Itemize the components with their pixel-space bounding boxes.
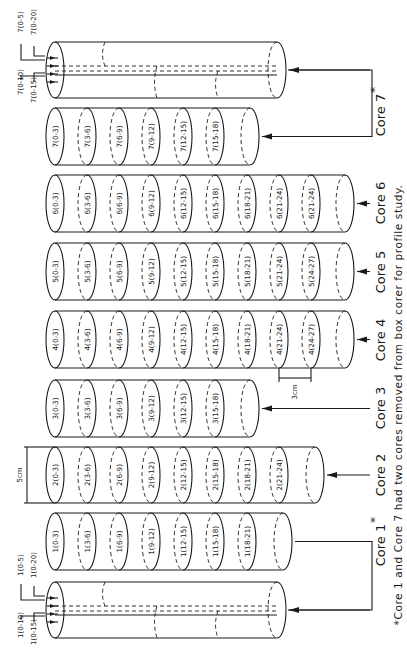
slice-label: 4(9-12) [147,326,156,353]
slice-label: 2(15-18) [211,459,220,490]
slice-label: 4(6-9) [115,328,124,350]
arrow-head-icon [357,337,367,343]
cylinder-bottom-face-hidden [241,380,250,437]
asterisk: * [367,86,382,93]
slice-label: 3(3-6) [83,397,92,419]
core-label: Core 4 [373,319,388,362]
sublabel: 7(0-20) [30,9,38,35]
cylinder-bottom-face-hidden [268,42,277,98]
thickness-label: 3cm [291,384,299,399]
slice-label: 6(6-9) [115,192,124,214]
cylinder-bottom-face-hidden [336,311,345,368]
diameter-label: 5cm [16,467,24,482]
cylinder-bottom-face [345,175,354,232]
arrow-head-icon [50,56,55,60]
slice-label: 6(15-18) [211,188,220,219]
slice-label: 6(0-3) [51,192,60,214]
slice-label: 3(0-3) [51,397,60,419]
slice-label: 5(0-3) [51,260,60,282]
arrow-head-icon [50,612,55,616]
slice-label: 6(3-6) [83,192,92,214]
slice-label: 1(9-12) [147,528,156,555]
arrow-head-icon [50,72,55,76]
slice-label: 3(12-15) [179,393,188,424]
slice-label: 4(12-15) [179,324,188,355]
leader-line [34,46,45,56]
slice-label: 3(6-9) [115,397,124,419]
slice-label: 6(21-24) [275,188,284,219]
slice-label: 1(0-3) [51,530,60,552]
slice-label: 2(3-6) [83,464,92,486]
slice-label: 7(3-6) [83,125,92,147]
slice-label: 7(6-9) [115,125,124,147]
cylinder-bottom-face [277,42,286,98]
cylinder-bottom-face-hidden [336,175,345,232]
slice-label: 6(9-12) [147,190,156,217]
cylinder-bottom-face [277,582,286,638]
core-label: Core 5 [373,251,388,294]
core-label: Core 3 [373,387,388,430]
cylinder-bottom-face [315,447,324,503]
cylinder-bottom-face-hidden [336,243,345,300]
core-label: Core 1 [373,524,388,567]
slice-label: 2(18-21) [243,459,252,490]
slice-label: 2(0-3) [51,464,60,486]
sublabel: 1(0-5) [17,554,25,576]
core-sampling-diagram: 7(0-5)7(0-20)7(0-10)7(0-15)7(0-3)7(3-6)7… [0,0,407,662]
core-label: Core 7 [373,94,388,137]
arrow-head-icon [50,64,55,68]
cylinder-bottom-face [345,243,354,300]
slice-label: 3(15-18) [211,393,220,424]
core-7-split-cylinder [21,42,286,98]
slice-label: 6(18-21) [243,188,252,219]
sublabel: 7(0-10) [17,69,25,95]
slice-label: 7(15-18) [211,121,220,152]
cylinder-top-face [46,42,64,98]
slice-label: 1(15-18) [211,526,220,557]
arrow-head-icon [50,596,55,600]
slice-label: 6(12-15) [179,188,188,219]
figure-caption: *Core 1 and Core 7 had two cores removed… [392,185,404,626]
core-label: Core 2 [373,454,388,497]
slice-label: 5(3-6) [83,260,92,282]
sublabel: 1(0-10) [17,612,25,638]
core-7-leader [262,70,372,137]
slice-label: 3(9-12) [147,395,156,422]
slice-label: 5(12-15) [179,256,188,287]
depth-cut [103,42,106,66]
cylinder-bottom-face-hidden [241,108,250,165]
cylinder-bottom-face-hidden [274,513,283,570]
cylinder-bottom-face [345,311,354,368]
slice-label: 5(9-12) [147,258,156,285]
core-1-split-cylinder [21,582,286,638]
slice-label: 1(12-15) [179,526,188,557]
slice-label: 1(6-9) [115,530,124,552]
slice-label: 7(9-12) [147,123,156,150]
cylinder-bottom-face [250,380,259,437]
arrow-head-icon [50,80,55,84]
sublabel: 1(0-15) [30,619,38,645]
arrow-head-icon [262,134,272,140]
slice-label: 5(24-27) [307,256,316,287]
slice-label: 2(6-9) [115,464,124,486]
sublabel: 7(0-5) [17,11,25,33]
slice-label: 4(21-24) [275,324,284,355]
slice-label: 2(9-12) [147,462,156,489]
depth-cut [103,582,106,606]
slice-label: 2(12-15) [179,459,188,490]
slice-label: 4(3-6) [83,328,92,350]
slice-label: 5(18-21) [243,256,252,287]
arrow-head-icon [50,604,55,608]
slice-label: 2(21-24) [275,459,284,490]
cylinder-bottom-face-hidden [306,447,315,503]
slice-label: 4(18-21) [243,324,252,355]
leader-line [21,584,45,600]
arrow-head-icon [357,201,367,207]
cylinder-bottom-face-hidden [268,582,277,638]
arrow-head-icon [50,620,55,624]
slice-label: 6(21-24) [307,188,316,219]
core-label: Core 6 [373,182,388,225]
leader-line [34,586,45,596]
cylinder-bottom-face [250,108,259,165]
slice-label: 4(0-3) [51,328,60,350]
